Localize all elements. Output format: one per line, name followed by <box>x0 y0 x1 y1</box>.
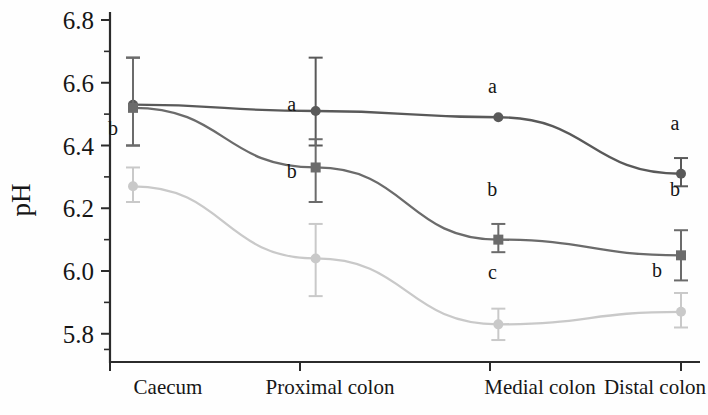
series-line <box>133 105 681 174</box>
chart-figure: 6.86.66.46.26.05.8 CaecumProximal colonM… <box>0 0 708 415</box>
x-tick-label: Caecum <box>134 375 203 399</box>
x-tick-label: Medial colon <box>484 375 596 399</box>
y-tick-label: 6.0 <box>63 258 94 285</box>
y-axis-ticks <box>101 20 110 349</box>
y-axis-title-text: pH <box>6 184 36 217</box>
data-point <box>676 250 686 260</box>
y-tick-label: 5.8 <box>63 321 94 348</box>
chart-axes <box>110 12 700 362</box>
ph-line-chart: 6.86.66.46.26.05.8 CaecumProximal colonM… <box>0 0 708 415</box>
error-bar <box>126 58 140 146</box>
data-point <box>311 106 321 116</box>
data-point <box>311 162 321 172</box>
y-tick-label: 6.8 <box>63 7 94 34</box>
significance-letter: a <box>287 93 296 115</box>
series-series-2 <box>126 58 688 281</box>
series-series-3 <box>126 167 688 340</box>
series-line <box>133 108 681 255</box>
y-tick-label: 6.2 <box>63 195 94 222</box>
significance-letter: b <box>108 117 118 139</box>
data-point <box>128 181 138 191</box>
data-point <box>128 103 138 113</box>
data-point <box>493 319 503 329</box>
chart-series-group <box>126 58 688 340</box>
data-point <box>676 307 686 317</box>
significance-letter: a <box>671 112 680 134</box>
data-point <box>311 253 321 263</box>
x-tick-label: Distal colon <box>604 375 707 399</box>
x-tick-label: Proximal colon <box>266 375 395 399</box>
y-tick-label: 6.4 <box>63 133 95 160</box>
significance-letter: a <box>488 75 497 97</box>
y-tick-label: 6.6 <box>63 70 94 97</box>
significance-letters: aaaaabbbbcb <box>107 0 680 283</box>
data-point <box>493 235 503 245</box>
error-bar <box>309 58 323 146</box>
significance-letter: b <box>287 160 297 182</box>
x-axis-tick-labels: CaecumProximal colonMedial colonDistal c… <box>134 375 707 399</box>
significance-letter: c <box>488 261 497 283</box>
data-point <box>493 112 503 122</box>
significance-letter: b <box>652 259 662 281</box>
series-line <box>133 186 681 324</box>
x-axis-ticks <box>110 362 681 371</box>
y-axis-title: pH <box>6 184 36 217</box>
significance-letter: b <box>670 178 680 200</box>
series-series-1 <box>126 58 688 187</box>
y-axis-tick-labels: 6.86.66.46.26.05.8 <box>63 7 95 348</box>
significance-letter: b <box>487 178 497 200</box>
